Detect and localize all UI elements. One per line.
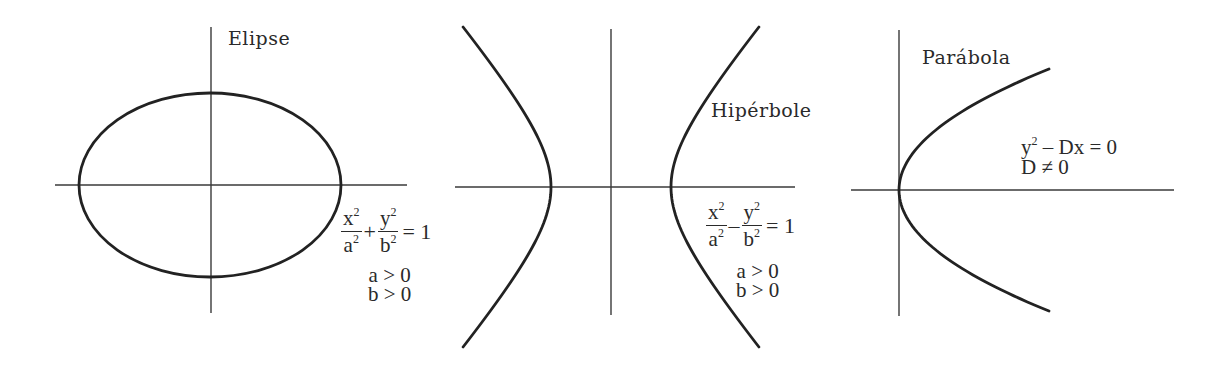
numerator-x: x [708,200,719,224]
parabola-equation-line: y2 – Dx = 0 [1021,137,1117,157]
denominator-a: a [344,233,353,257]
ellipse-conditions: a > 0 b > 0 [368,266,411,304]
exponent: 2 [719,199,725,213]
parabola-equation: y2 – Dx = 0 D ≠ 0 [1021,137,1117,177]
equals-one: = 1 [766,215,795,237]
numerator-y: y [744,200,755,224]
exponent: 2 [354,205,360,219]
exponent: 2 [390,232,396,246]
exponent: 2 [754,226,760,240]
exponent: 2 [353,232,359,246]
ellipse-panel [55,27,407,313]
hyperbola-fraction-x: x2 a2 [706,202,727,250]
denominator-b: b [744,227,755,251]
ellipse-fraction-y: y2 b2 [378,208,399,256]
numerator-x: x [343,206,354,230]
hyperbola-title: Hipérbole [711,99,812,121]
equals-one: = 1 [402,221,431,243]
exponent: 2 [754,199,760,213]
ellipse-title: Elipse [228,27,290,49]
exponent: 2 [1032,134,1038,148]
numerator-y: y [380,206,391,230]
minus-operator: – [729,215,740,237]
hyperbola-fraction-y: y2 b2 [742,202,763,250]
exponent: 2 [718,226,724,240]
ellipse-equation: x2 a2 + y2 b2 = 1 [340,208,431,256]
conic-sections-diagram [0,0,1225,372]
parabola-title: Parábola [922,46,1011,68]
condition-b: b > 0 [368,285,411,304]
parabola-condition: D ≠ 0 [1021,157,1117,177]
denominator-a: a [709,227,718,251]
denominator-b: b [380,233,391,257]
hyperbola-conditions: a > 0 b > 0 [736,262,779,300]
hyperbola-equation: x2 a2 – y2 b2 = 1 [705,202,795,250]
ellipse-fraction-x: x2 a2 [341,208,362,256]
parabola-panel [851,30,1174,316]
condition-b: b > 0 [736,281,779,300]
exponent: 2 [390,205,396,219]
plus-operator: + [364,221,376,243]
